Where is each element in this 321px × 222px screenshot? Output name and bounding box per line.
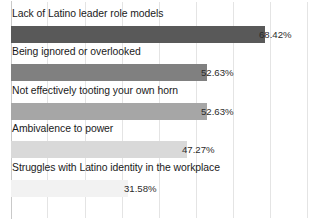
bar-value-label: 52.63% [201,67,234,79]
bar-category-label: Not effectively tooting your own horn [12,84,178,97]
chart-plot-area: Lack of Latino leader role models68.42%B… [0,0,321,222]
bar-value-label: 68.42% [259,29,292,41]
bar-rect [11,103,207,120]
bar-value-label: 47.27% [182,144,215,156]
bar-row: 52.63% [11,64,321,81]
horizontal-bar-chart: Lack of Latino leader role models68.42%B… [0,0,321,222]
bar-rect [11,141,187,158]
bar-rect [11,26,265,43]
bar-value-label: 52.63% [201,106,234,118]
bar-rect [11,180,128,197]
bar-row: 52.63% [11,103,321,120]
bar-category-label: Lack of Latino leader role models [12,7,163,20]
bar-row: 68.42% [11,26,321,43]
bar-rect [11,64,207,81]
bar-category-label: Ambivalence to power [12,122,113,135]
bar-value-label: 31.58% [124,183,157,195]
bar-category-label: Being ignored or overlooked [12,45,141,58]
bar-category-label: Struggles with Latino identity in the wo… [12,161,220,174]
bar-row: 47.27% [11,141,321,158]
bar-row: 31.58% [11,180,321,197]
